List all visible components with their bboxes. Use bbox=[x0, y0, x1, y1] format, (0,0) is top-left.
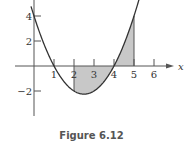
x-tick-label: 3 bbox=[91, 69, 97, 80]
figure-caption: Figure 6.12 bbox=[0, 130, 183, 141]
y-tick-label: 2 bbox=[26, 36, 32, 47]
x-tick-label: 2 bbox=[71, 69, 77, 80]
y-tick-label: −2 bbox=[17, 86, 32, 97]
function-graph: x 123456 42−2 bbox=[0, 0, 191, 130]
y-tick-label: 4 bbox=[26, 11, 32, 22]
x-axis-label: x bbox=[178, 61, 184, 72]
x-tick-label: 6 bbox=[151, 69, 157, 80]
x-tick-label: 5 bbox=[131, 69, 137, 80]
y-ticks: 42−2 bbox=[17, 11, 41, 97]
x-axis-arrow-icon bbox=[166, 64, 174, 69]
